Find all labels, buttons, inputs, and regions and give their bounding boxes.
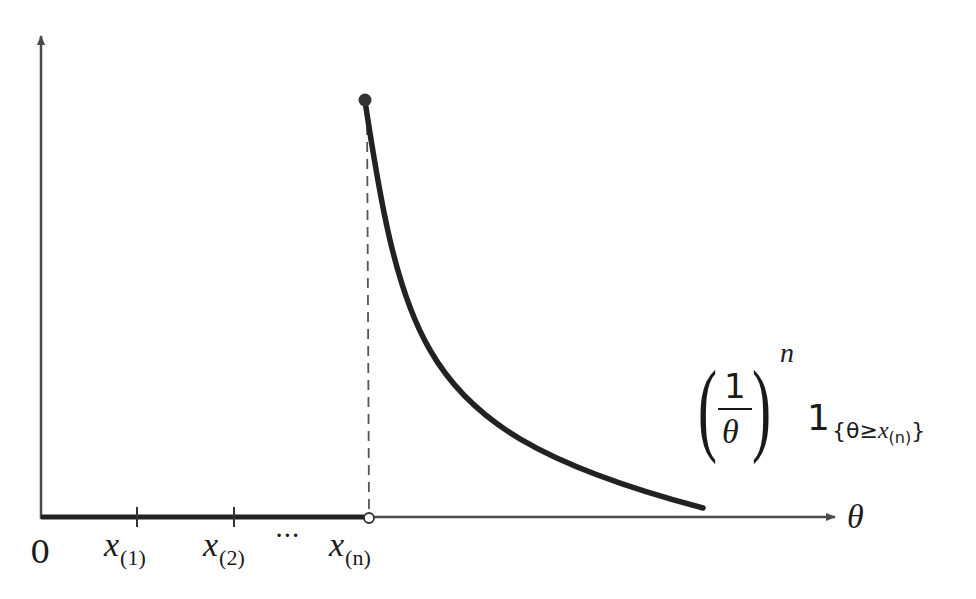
indicator-one: 1 <box>807 400 830 436</box>
tick-label-zero: 0 <box>30 536 50 568</box>
formula-numerator: 1 <box>724 369 746 403</box>
chart-canvas <box>0 0 976 599</box>
formula-close-paren: ) <box>752 355 771 459</box>
indicator-sub: (n) <box>889 428 912 447</box>
x-axis-label: θ <box>847 500 864 534</box>
tick-label-x2-base: x <box>203 526 218 563</box>
tick-label-xn: x(n) <box>329 528 371 562</box>
open-circle <box>364 513 374 523</box>
formula-exponent: n <box>780 339 794 367</box>
tick-label-x2-sub: (2) <box>219 545 245 570</box>
formula-denominator: θ <box>722 415 739 449</box>
indicator-condition: {θ≥x(n)} <box>832 418 925 442</box>
indicator-open: {θ≥ <box>832 418 878 443</box>
formula-open-paren: ( <box>698 355 717 459</box>
tick-label-xn-base: x <box>329 526 344 563</box>
dashed-guide <box>367 108 369 512</box>
tick-label-x1-base: x <box>104 526 119 563</box>
formula-fraction-bar <box>718 408 752 410</box>
tick-label-x1-sub: (1) <box>120 545 146 570</box>
peak-dot <box>359 94 372 107</box>
likelihood-curve <box>365 101 703 508</box>
tick-ellipsis: ··· <box>275 522 300 548</box>
tick-label-x1: x(1) <box>104 528 146 562</box>
indicator-var: x <box>878 417 889 443</box>
indicator-close: } <box>911 418 925 443</box>
likelihood-chart: 0 x(1) x(2) ··· x(n) θ ( 1 θ ) n 1 {θ≥x(… <box>0 0 976 599</box>
tick-label-x2: x(2) <box>203 528 245 562</box>
tick-label-xn-sub: (n) <box>345 545 371 570</box>
